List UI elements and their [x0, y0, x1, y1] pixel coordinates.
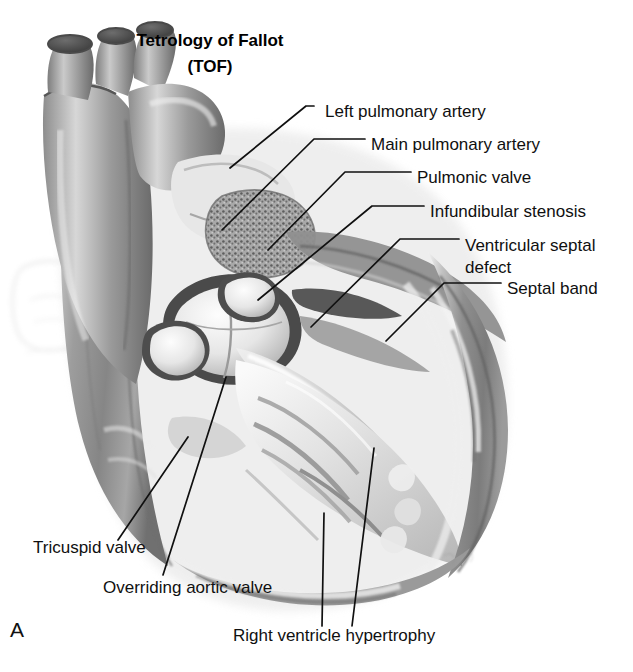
label-overriding-aortic-valve: Overriding aortic valve [103, 578, 272, 598]
heart-illustration [0, 0, 633, 672]
label-main-pulmonary-artery: Main pulmonary artery [371, 135, 540, 155]
label-septal-band: Septal band [507, 279, 598, 299]
figure-title: Tetrology of Fallot (TOF) [0, 28, 420, 80]
label-tricuspid-valve: Tricuspid valve [33, 538, 146, 558]
figure-title-line2: (TOF) [0, 54, 420, 80]
label-vsd-line1: Ventricular septal [465, 235, 595, 257]
label-pulmonic-valve: Pulmonic valve [417, 168, 531, 188]
label-infundibular-stenosis: Infundibular stenosis [430, 202, 586, 222]
figure-panel: Tetrology of Fallot (TOF) Left pulmonary… [0, 0, 633, 672]
label-right-ventricle-hypertrophy: Right ventricle hypertrophy [233, 626, 435, 646]
label-vsd-line2: defect [465, 257, 595, 279]
label-ventricular-septal-defect: Ventricular septal defect [465, 235, 595, 279]
label-left-pulmonary-artery: Left pulmonary artery [325, 102, 486, 122]
panel-letter: A [10, 618, 24, 642]
figure-title-line1: Tetrology of Fallot [0, 28, 420, 54]
